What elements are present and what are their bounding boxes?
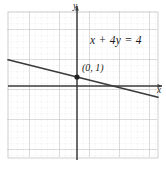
point-marker-0-1	[74, 74, 79, 79]
plotted-point	[74, 74, 79, 79]
coordinate-plane	[0, 0, 166, 172]
x-axis-label: x	[157, 86, 161, 96]
point-coordinate-label: (0, 1)	[82, 63, 104, 73]
equation-label: x + 4y = 4	[90, 35, 142, 47]
graph-figure: x + 4y = 4 (0, 1) y x	[0, 0, 166, 172]
y-axis-label: y	[73, 2, 77, 12]
